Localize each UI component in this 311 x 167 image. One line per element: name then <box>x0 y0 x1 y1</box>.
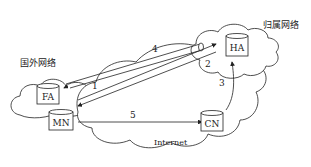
link-2-label: 2 <box>205 59 211 69</box>
link-5-label: 5 <box>130 110 136 120</box>
mobile-ip-diagram: FA MN HA CN 4 1 2 3 5 国外网络 归属网络 Internet <box>0 0 311 167</box>
internet-label: Internet <box>154 138 188 147</box>
home-network-label: 归属网络 <box>263 19 299 30</box>
foreign-network-label: 国外网络 <box>20 57 56 68</box>
link-1-label: 1 <box>92 81 98 91</box>
node-cn: CN <box>201 111 223 132</box>
link-3-label: 3 <box>219 78 225 88</box>
node-mn: MN <box>49 110 73 131</box>
node-fa: FA <box>37 84 59 105</box>
svg-text:FA: FA <box>42 92 54 102</box>
node-ha: HA <box>226 34 248 57</box>
link-4-label: 4 <box>152 44 158 54</box>
svg-text:HA: HA <box>230 43 245 53</box>
svg-text:MN: MN <box>52 118 69 128</box>
svg-text:CN: CN <box>205 119 220 129</box>
